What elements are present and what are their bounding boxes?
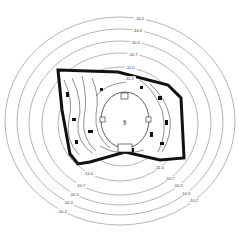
- contour-label: -11.0: [155, 165, 165, 170]
- contour-label: -10.2: [58, 209, 68, 214]
- contour-label: -11.0: [84, 171, 94, 176]
- contour-label: -11.2: [125, 76, 135, 81]
- contour-label: -10.2: [189, 198, 199, 203]
- contour-svg: § -10.2-10.2-10.2-10.3-10.3-10.3-10.5-10…: [0, 0, 239, 237]
- contour-label: -11.0: [126, 65, 136, 70]
- contour-label: -10.3: [181, 191, 191, 196]
- contour-label: -10.3: [133, 28, 143, 33]
- contour-label: -10.5: [70, 192, 80, 197]
- contour-label: -10.7: [129, 52, 139, 57]
- contour-label: -10.5: [173, 183, 183, 188]
- contour-label: -10.2: [135, 16, 145, 21]
- contour-label: -10.3: [64, 200, 74, 205]
- contour-label: -10.5: [131, 40, 141, 45]
- center-mark: §: [123, 119, 126, 125]
- site-plan: §: [58, 70, 184, 164]
- contour-label: -10.7: [76, 183, 86, 188]
- contour-label: -10.7: [165, 176, 175, 181]
- contour-diagram: § -10.2-10.2-10.2-10.3-10.3-10.3-10.5-10…: [0, 0, 239, 237]
